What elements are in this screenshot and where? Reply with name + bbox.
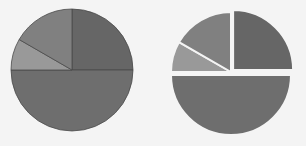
pie-charts <box>0 0 306 146</box>
chart-canvas <box>0 0 306 146</box>
pie-slice-a <box>72 9 133 70</box>
pie-chart-2 <box>171 10 293 135</box>
pie-chart-1 <box>11 9 133 131</box>
pie-slice-b <box>171 75 291 135</box>
pie-slice-a <box>233 10 293 70</box>
pie-slice-b <box>11 70 133 131</box>
